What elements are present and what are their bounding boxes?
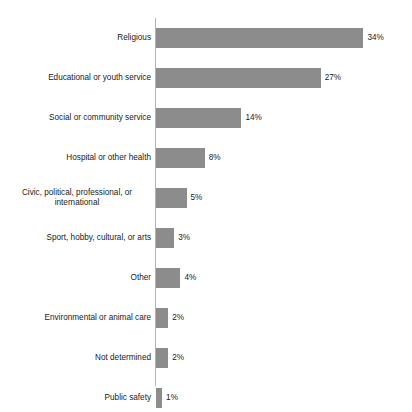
bar-row: Civic, political, professional, or inter… — [0, 178, 412, 218]
bar-value-label: 2% — [172, 353, 184, 363]
bar-category-label: Religious — [3, 33, 151, 43]
bar-row: Social or community service14% — [0, 98, 412, 138]
bar-row: Religious34% — [0, 18, 412, 58]
bar-value-label: 8% — [209, 153, 221, 163]
bar-value-label: 14% — [245, 113, 261, 123]
bar-row: Hospital or other health8% — [0, 138, 412, 178]
bar-value-label: 27% — [325, 73, 341, 83]
bar-rect — [156, 348, 168, 368]
bar-value-label: 2% — [172, 313, 184, 323]
bar-category-label: Hospital or other health — [3, 153, 151, 163]
bar-rect — [156, 268, 180, 288]
bar-rect — [156, 108, 241, 128]
bar-row: Other4% — [0, 258, 412, 298]
bar-rect — [156, 28, 363, 48]
bar-row: Educational or youth service27% — [0, 58, 412, 98]
bar-rect — [156, 148, 205, 168]
bar-category-label: Educational or youth service — [3, 73, 151, 83]
bar-category-label: Civic, political, professional, or inter… — [3, 188, 151, 207]
bar-category-label: Other — [3, 273, 151, 283]
bar-value-label: 1% — [166, 393, 178, 403]
bar-value-label: 34% — [367, 33, 383, 43]
bar-value-label: 4% — [184, 273, 196, 283]
bar-category-label: Not determined — [3, 353, 151, 363]
bar-rect — [156, 188, 187, 208]
bar-category-label: Environmental or animal care — [3, 313, 151, 323]
bar-rect — [156, 388, 162, 408]
bar-category-label: Social or community service — [3, 113, 151, 123]
bar-row: Public safety1% — [0, 378, 412, 412]
bar-rect — [156, 68, 321, 88]
bar-rect — [156, 228, 174, 248]
bar-category-label: Public safety — [3, 393, 151, 403]
bar-category-label: Sport, hobby, cultural, or arts — [3, 233, 151, 243]
bar-value-label: 5% — [191, 193, 203, 203]
bar-rect — [156, 308, 168, 328]
bar-row: Sport, hobby, cultural, or arts3% — [0, 218, 412, 258]
bar-row: Environmental or animal care2% — [0, 298, 412, 338]
bar-row: Not determined2% — [0, 338, 412, 378]
bar-value-label: 3% — [178, 233, 190, 243]
